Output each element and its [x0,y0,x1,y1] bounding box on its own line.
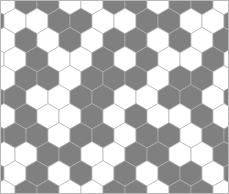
hexagon-grid-canvas [0,0,229,194]
hexagon-pattern-figure [0,0,229,194]
